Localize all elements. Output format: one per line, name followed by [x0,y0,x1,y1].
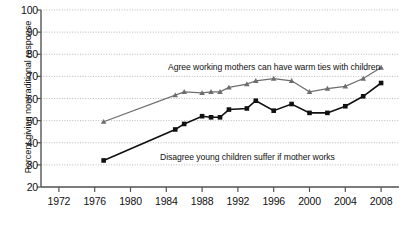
x-tick-label: 1996 [262,195,285,207]
series-annotation-disagree: Disagree young children suffer if mother… [160,152,335,162]
line-chart: Percent giving nontraditional response 2… [0,0,410,235]
x-tick-label: 1988 [191,195,214,207]
x-tick-label: 1980 [119,195,142,207]
x-axis-ticks: 1972197619801984198819921996200020042008 [0,0,410,235]
x-tick-label: 2004 [334,195,357,207]
x-tick-label: 1992 [227,195,250,207]
x-tick-label: 2000 [298,195,321,207]
series-annotation-agree: Agree working mothers can have warm ties… [168,62,380,72]
x-tick-label: 1976 [83,195,106,207]
x-tick-label: 2008 [370,195,393,207]
x-tick-label: 1984 [155,195,178,207]
x-tick-label: 1972 [48,195,71,207]
